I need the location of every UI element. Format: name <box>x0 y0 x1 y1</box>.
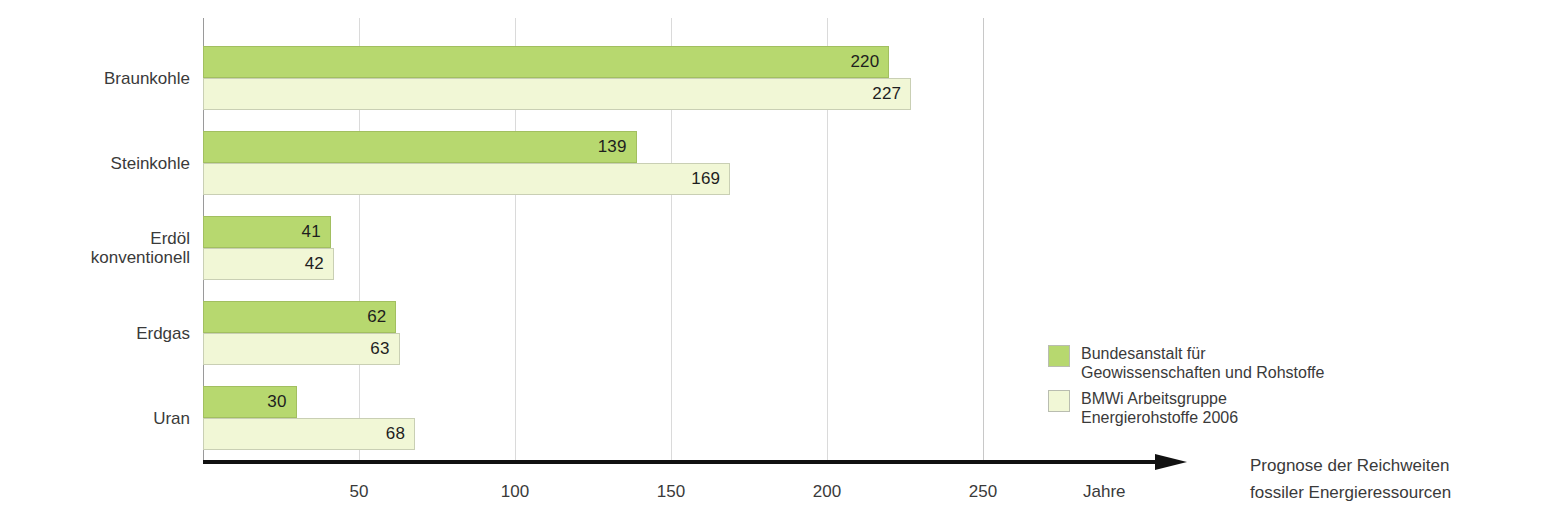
bar-value-label: 169 <box>691 169 729 189</box>
x-tick-label-250: 250 <box>969 482 997 502</box>
bar-value-label: 30 <box>267 392 295 412</box>
x-axis: 50100150200250 <box>203 460 1188 465</box>
bar: 63 <box>203 333 400 365</box>
bar: 41 <box>203 216 331 248</box>
category-axis-labels: BraunkohleSteinkohleErdöl konventionellE… <box>10 18 190 462</box>
bar-value-label: 41 <box>302 222 330 242</box>
x-tick-label-50: 50 <box>350 482 369 502</box>
bar: 62 <box>203 301 396 333</box>
legend-swatch <box>1048 390 1070 412</box>
legend-item: BMWi Arbeitsgruppe Energierohstoffe 2006 <box>1048 389 1378 427</box>
bar-value-label: 63 <box>370 339 398 359</box>
x-tick-label-100: 100 <box>501 482 529 502</box>
gridline-250 <box>983 18 984 462</box>
bar: 42 <box>203 248 334 280</box>
x-tick-label-200: 200 <box>813 482 841 502</box>
bar: 139 <box>203 131 637 163</box>
category-label: Erdöl konventionell <box>10 229 190 267</box>
category-label: Steinkohle <box>10 154 190 173</box>
bar: 68 <box>203 418 415 450</box>
bar-value-label: 227 <box>872 84 910 104</box>
legend: Bundesanstalt für Geowissenschaften und … <box>1048 344 1378 434</box>
category-label: Braunkohle <box>10 69 190 88</box>
legend-label: BMWi Arbeitsgruppe Energierohstoffe 2006 <box>1081 389 1238 427</box>
bar-value-label: 220 <box>850 52 888 72</box>
chart-container: BraunkohleSteinkohleErdöl konventionellE… <box>0 0 1541 532</box>
bar: 30 <box>203 386 297 418</box>
chart-caption: Prognose der Reichweiten fossiler Energi… <box>1250 452 1451 506</box>
bar-value-label: 62 <box>367 307 395 327</box>
legend-item: Bundesanstalt für Geowissenschaften und … <box>1048 344 1378 382</box>
bar: 227 <box>203 78 911 110</box>
bar: 169 <box>203 163 730 195</box>
bar-value-label: 68 <box>386 424 414 444</box>
x-axis-unit-label: Jahre <box>1083 482 1126 502</box>
bar-value-label: 139 <box>598 137 636 157</box>
bar: 220 <box>203 46 889 78</box>
bar-value-label: 42 <box>305 254 333 274</box>
x-tick-label-150: 150 <box>657 482 685 502</box>
x-axis-line <box>203 460 1158 464</box>
category-label: Uran <box>10 409 190 428</box>
category-label: Erdgas <box>10 324 190 343</box>
x-axis-arrow-icon <box>1155 454 1187 470</box>
legend-label: Bundesanstalt für Geowissenschaften und … <box>1081 344 1324 382</box>
legend-swatch <box>1048 345 1070 367</box>
